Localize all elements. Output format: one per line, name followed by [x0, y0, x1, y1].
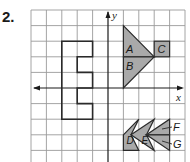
label-d: D — [127, 135, 134, 146]
label-g: G — [173, 138, 182, 150]
label-f: F — [173, 121, 181, 133]
y-axis-up-arrow-icon — [106, 11, 111, 18]
coordinate-grid: A B C D E F G x y — [0, 0, 190, 162]
y-axis — [106, 11, 111, 162]
y-axis-label: y — [111, 9, 117, 21]
label-a: A — [125, 43, 133, 55]
x-axis-label: x — [175, 91, 181, 103]
label-c: C — [158, 43, 166, 55]
label-b: B — [126, 60, 133, 72]
x-axis-right-arrow-icon — [177, 86, 184, 91]
x-axis-left-arrow-icon — [33, 86, 40, 91]
label-e: E — [142, 135, 149, 146]
